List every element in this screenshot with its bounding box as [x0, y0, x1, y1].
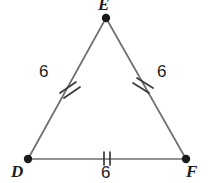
side-length-label-ef: 6 — [157, 63, 166, 80]
side-ef-line — [106, 18, 186, 159]
side-length-label-de: 6 — [39, 63, 48, 80]
vertex-dot-e — [102, 14, 110, 22]
side-ef-tick-marks — [133, 78, 153, 93]
geometry-figure: E D F 6 6 6 — [0, 0, 208, 183]
triangle-diagram-svg — [0, 0, 208, 183]
vertex-label-f: F — [186, 163, 197, 180]
side-length-label-df: 6 — [101, 164, 110, 181]
vertex-label-e: E — [98, 0, 109, 13]
vertex-dot-d — [24, 155, 32, 163]
vertex-label-d: D — [11, 163, 23, 180]
